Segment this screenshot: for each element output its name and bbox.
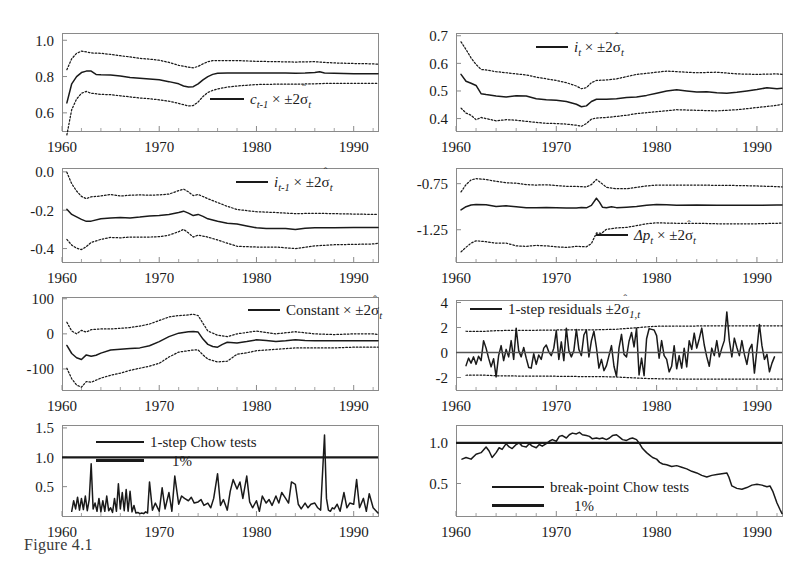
legend-rule <box>596 234 628 236</box>
y-tick-label: 1.5 <box>35 420 54 436</box>
legend-i-lag: it-1 × ±2̂σt <box>236 175 333 194</box>
x-tick-label: 1960 <box>441 524 471 540</box>
y-tick-label: 0.5 <box>429 83 448 99</box>
series-path <box>67 347 378 387</box>
y-tick-label: 4 <box>441 295 449 311</box>
legend-rule <box>492 486 544 488</box>
series-path <box>461 198 782 210</box>
legend-rule <box>470 308 502 310</box>
x-tick-label: 1970 <box>144 524 174 540</box>
legend-label-critical: 1% <box>172 453 192 469</box>
y-tick-label: 1.0 <box>35 450 54 466</box>
legend-rule-thick <box>492 504 544 507</box>
y-tick-label: 0.6 <box>429 56 448 72</box>
legend-rule <box>210 98 244 100</box>
y-tick-label: 1.0 <box>429 435 448 451</box>
y-tick-label: -2 <box>436 370 449 386</box>
y-tick-label: 0.5 <box>35 479 54 495</box>
y-tick-label: 0.5 <box>429 476 448 492</box>
x-tick-label: 1990 <box>339 524 369 540</box>
series-path <box>67 209 378 229</box>
panel-dp-t: 1960197019801990-1.25-0.75 <box>398 152 792 292</box>
x-tick-label: 1980 <box>642 524 672 540</box>
y-tick-label: 0.8 <box>35 69 54 85</box>
legend-entry-critical: 1% <box>96 453 257 470</box>
series-path <box>461 179 782 192</box>
legend-rule <box>236 181 268 183</box>
x-tick-label: 1970 <box>541 524 571 540</box>
legend-1step-chow: 1-step Chow tests1% <box>96 434 257 470</box>
legend-label-test: break-point Chow tests <box>550 479 689 495</box>
y-tick-label: -0.2 <box>30 203 54 219</box>
legend-label-test: 1-step Chow tests <box>150 434 257 450</box>
x-tick-label: 1980 <box>241 524 271 540</box>
figure-caption: Figure 4.1 <box>24 536 93 554</box>
legend-residuals: 1-step residuals ±2̂σ1,t <box>470 302 640 321</box>
legend-constant: Constant × ±2̂σt <box>248 303 382 322</box>
y-tick-label: 2 <box>441 320 449 336</box>
panel-c-lag: 19601970198019900.60.81.0 <box>4 17 388 161</box>
series-path <box>67 229 378 249</box>
panel-1step-chow: 19601970198019900.51.01.5 <box>4 409 388 546</box>
y-tick-label: 0 <box>47 326 55 342</box>
recursive-estimation-figure: 19601970198019900.60.81.0196019701980199… <box>0 0 811 566</box>
series-path <box>466 312 774 377</box>
y-tick-label: 0.7 <box>429 28 448 44</box>
legend-i-t: it × ±2̂σt <box>536 40 624 59</box>
legend-label-critical: 1% <box>574 498 594 514</box>
y-tick-label: 1.0 <box>35 33 54 49</box>
y-tick-label: 0.6 <box>35 105 54 121</box>
y-tick-label: -1.25 <box>417 222 448 238</box>
legend-rule <box>248 309 280 311</box>
y-tick-label: 0 <box>441 345 449 361</box>
y-tick-label: -0.4 <box>30 241 54 257</box>
y-tick-label: 0.4 <box>429 111 448 127</box>
legend-c-lag: ct-1 × ±2̂σt <box>210 92 311 111</box>
panel-i-lag: 1960197019801990-0.4-0.20.0 <box>4 152 388 292</box>
panel-breakpoint-chow: 19601970198019900.51.0 <box>398 409 792 546</box>
legend-entry-critical: 1% <box>492 498 689 515</box>
series-path <box>466 326 782 332</box>
legend-dp-t: Δpt × ±2̂σt <box>596 228 696 247</box>
legend-entry-test: 1-step Chow tests <box>96 434 257 451</box>
legend-rule <box>536 46 568 48</box>
series-path <box>461 104 782 126</box>
legend-breakpoint-chow: break-point Chow tests1% <box>492 479 689 515</box>
legend-rule-thick <box>96 459 144 462</box>
series-path <box>466 375 782 379</box>
y-tick-label: 100 <box>32 291 55 307</box>
y-tick-label: -0.75 <box>417 176 448 192</box>
y-tick-label: 0.0 <box>35 164 54 180</box>
x-tick-label: 1990 <box>742 524 772 540</box>
legend-rule <box>96 441 144 443</box>
legend-entry-test: break-point Chow tests <box>492 479 689 496</box>
series-path <box>67 51 378 70</box>
series-path <box>461 74 782 106</box>
y-tick-label: -100 <box>27 361 55 377</box>
